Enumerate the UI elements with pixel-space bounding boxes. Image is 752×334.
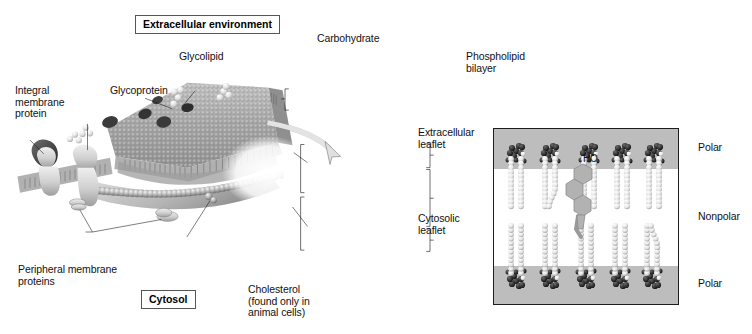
phospholipid-head-beads-bottom <box>90 171 284 197</box>
hydroxyl-label: HO <box>583 153 598 165</box>
peripheral-membrane-proteins-label: Peripheral membrane proteins <box>18 264 117 287</box>
extracellular-leaflet-label: Extracellular leaflet <box>418 127 474 150</box>
nonpolar-label: Nonpolar <box>698 211 740 223</box>
glycoprotein-label: Glycoprotein <box>110 85 168 97</box>
cholesterol-label: Cholesterol (found only in animal cells) <box>248 284 310 319</box>
membrane-figure: HO Extracellular environment Cytosol Int… <box>0 0 752 334</box>
peripheral-membrane-protein-right <box>156 208 179 221</box>
brackets <box>281 89 434 252</box>
transmembrane-protein-patches <box>101 95 195 130</box>
bilayer-cross-section-right <box>269 88 293 146</box>
peripheral-membrane-protein-left <box>69 199 86 210</box>
cholesterol-in-membrane <box>205 193 217 204</box>
polar-top-label: Polar <box>698 142 722 154</box>
polar-bottom-label: Polar <box>698 278 722 290</box>
membrane-strip-left <box>18 158 113 193</box>
glycolipid-label: Glycolipid <box>179 51 224 63</box>
cytosol-box: Cytosol <box>141 290 196 309</box>
integral-membrane-protein-shape <box>32 140 60 196</box>
glycoprotein-shape <box>67 125 99 207</box>
bilayer-detail-inset: HO <box>493 128 679 305</box>
carbohydrate-sugar-chain <box>217 83 233 101</box>
membrane-lower-lamella <box>90 171 284 209</box>
cholesterol-molecule <box>566 164 592 237</box>
bilayer-cut-edge-front <box>114 143 282 182</box>
extracellular-environment-box: Extracellular environment <box>135 15 280 34</box>
magnification-arrow <box>268 123 341 165</box>
leader-lines <box>30 91 308 237</box>
phospholipid-bilayer-label: Phospholipid bilayer <box>466 51 525 74</box>
carbohydrate-label: Carbohydrate <box>317 33 379 45</box>
glycolipid-sugar-chain <box>170 87 184 108</box>
highlight-glow <box>222 136 316 209</box>
cytosolic-leaflet-label: Cytosolic leaflet <box>418 213 460 236</box>
membrane-inner-shadow <box>118 154 278 185</box>
glycoprotein-sugar-chain <box>67 125 93 144</box>
integral-membrane-protein-label: Integral membrane protein <box>15 85 64 120</box>
